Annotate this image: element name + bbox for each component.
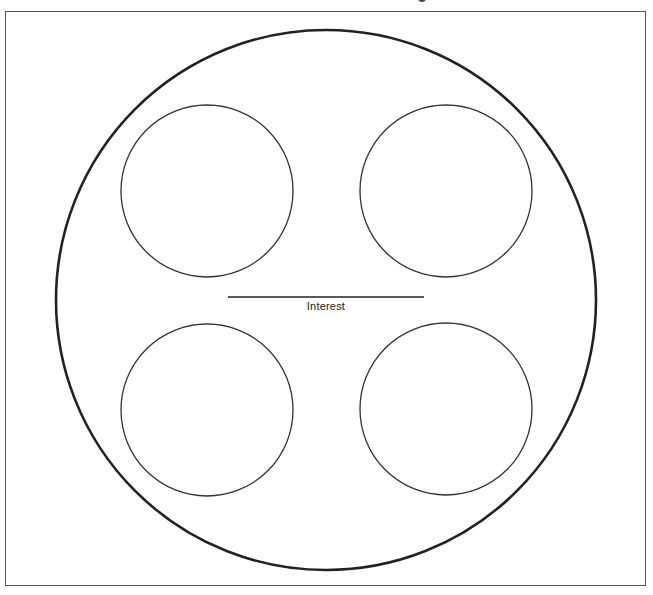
fill-area-bottom-right[interactable] (360, 323, 532, 495)
fill-area-bottom-left[interactable] (121, 324, 293, 496)
fill-area-top-right[interactable] (360, 105, 532, 277)
center-label-interest: Interest (228, 300, 424, 312)
diagram-canvas (0, 0, 653, 595)
fill-area-top-left[interactable] (121, 105, 293, 277)
